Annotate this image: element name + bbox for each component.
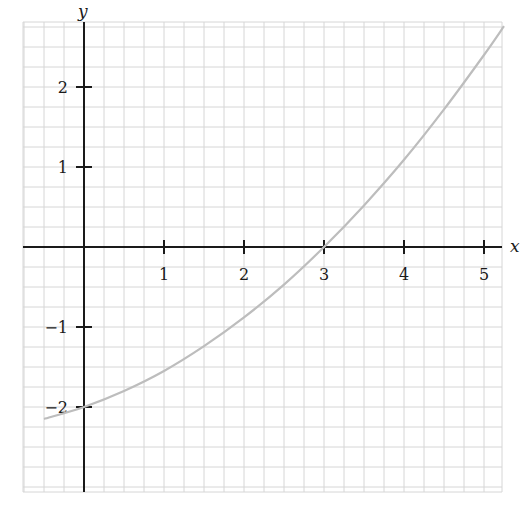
x-tick-label: 1 (159, 265, 169, 284)
chart-plot: 1234521−1−2 x y (0, 0, 525, 510)
x-tick-label: 4 (399, 265, 409, 284)
y-tick-label: 2 (58, 78, 68, 97)
grid (23, 22, 502, 492)
x-tick-label: 5 (479, 265, 489, 284)
x-axis-label: x (510, 236, 520, 256)
y-tick-label: −1 (44, 318, 68, 337)
x-tick-label: 2 (239, 265, 249, 284)
x-tick-label: 3 (319, 265, 329, 284)
y-axis-label: y (77, 1, 88, 21)
function-curve (44, 26, 504, 419)
y-tick-label: 1 (58, 158, 68, 177)
axes (23, 22, 502, 492)
